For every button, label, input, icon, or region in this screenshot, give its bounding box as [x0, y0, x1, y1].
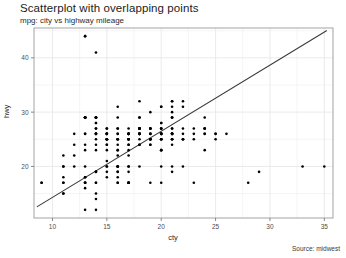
minor-gridlines — [34, 28, 333, 218]
axis-tick-labels: 101520253035203040 — [21, 54, 328, 230]
x-axis-label: cty — [0, 233, 346, 242]
svg-text:10: 10 — [49, 223, 57, 230]
source-caption: Source: midwest — [292, 245, 340, 252]
major-gridlines — [34, 28, 333, 218]
svg-text:40: 40 — [21, 54, 29, 61]
data-points — [40, 35, 325, 211]
y-axis-label: hwy — [2, 105, 11, 118]
chart-figure: Scatterplot with overlapping points mpg:… — [0, 0, 346, 258]
svg-text:35: 35 — [321, 223, 329, 230]
chart-title: Scatterplot with overlapping points — [20, 2, 199, 15]
svg-text:15: 15 — [103, 223, 111, 230]
regression-line — [37, 31, 326, 207]
svg-text:30: 30 — [266, 223, 274, 230]
svg-text:20: 20 — [158, 223, 166, 230]
chart-subtitle: mpg: city vs highway mileage — [20, 16, 124, 26]
scatter-plot-canvas: 101520253035203040 — [0, 0, 346, 258]
svg-text:30: 30 — [21, 109, 29, 116]
svg-text:25: 25 — [212, 223, 220, 230]
panel-border — [34, 28, 333, 218]
svg-text:20: 20 — [21, 163, 29, 170]
